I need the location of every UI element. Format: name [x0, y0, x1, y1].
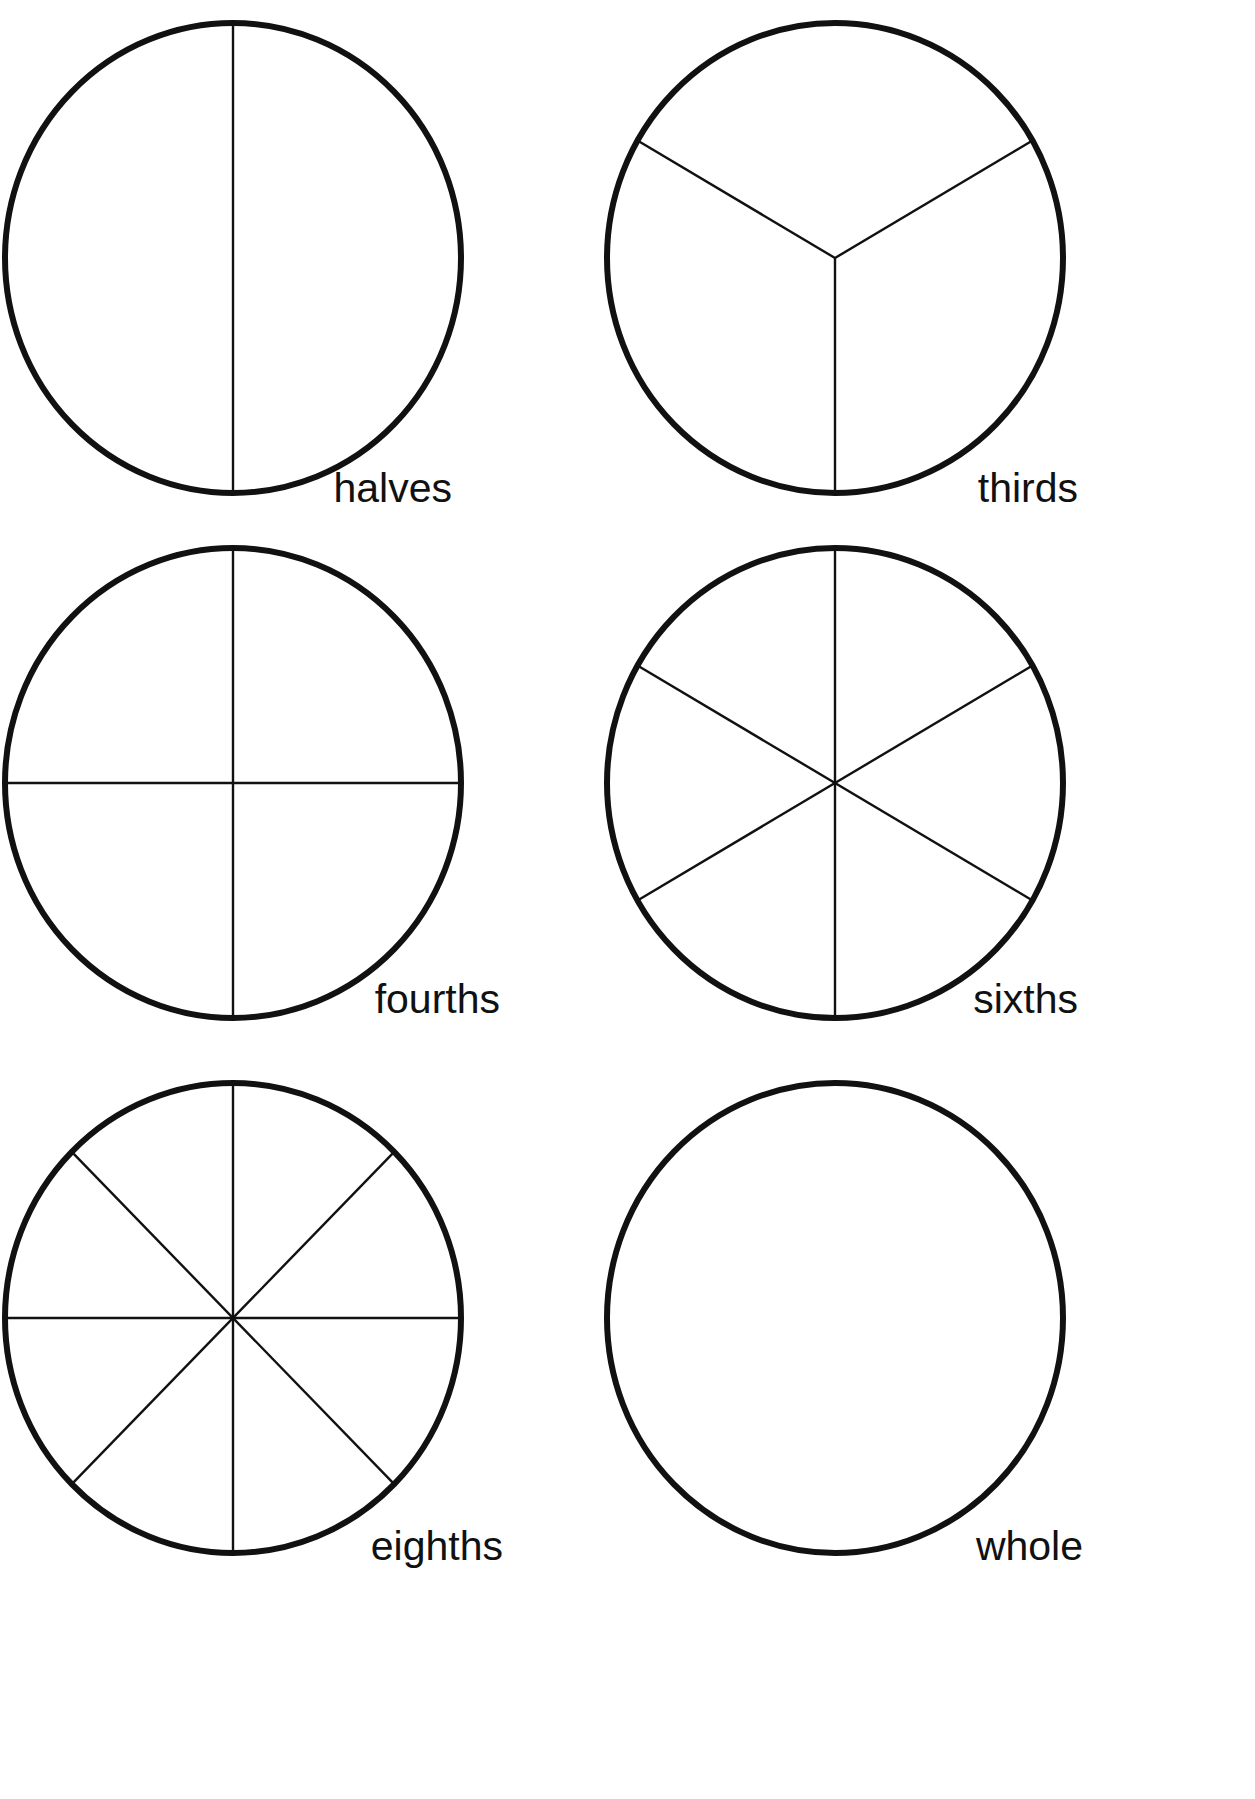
fraction-circle-fourths[interactable]: fourths [5, 548, 500, 1022]
dividers-thirds [638, 141, 1033, 494]
label-whole: whole [975, 1523, 1083, 1569]
divider-thirds-150 [638, 141, 836, 259]
divider-thirds-30 [835, 141, 1033, 259]
circle-outline-whole [607, 1083, 1063, 1553]
fraction-circle-halves[interactable]: halves [5, 23, 461, 511]
fraction-circle-thirds[interactable]: thirds [607, 23, 1078, 511]
label-fourths: fourths [375, 976, 500, 1022]
label-thirds: thirds [978, 465, 1078, 511]
label-eighths: eighths [371, 1523, 503, 1569]
fraction-circle-whole[interactable]: whole [607, 1083, 1083, 1569]
label-halves: halves [333, 465, 452, 511]
fraction-circle-eighths[interactable]: eighths [5, 1083, 503, 1569]
dividers-eighths [5, 1083, 461, 1553]
label-sixths: sixths [973, 976, 1078, 1022]
dividers-sixths [638, 548, 1033, 1018]
fraction-circles-figure: halves thirds fourths [0, 0, 1255, 1799]
fraction-circle-sixths[interactable]: sixths [607, 548, 1078, 1022]
worksheet-page: halves thirds fourths [0, 0, 1255, 1799]
